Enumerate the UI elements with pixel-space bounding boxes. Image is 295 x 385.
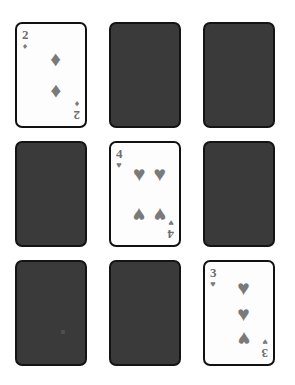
card-index-top-left: 2♦ (22, 28, 28, 51)
diamonds-suit-icon: ♦ (23, 42, 28, 51)
diamonds-pip-icon: ♦ (50, 47, 61, 68)
card-row1-col1[interactable]: 2♦2♦♦♦ (15, 22, 87, 128)
hearts-suit-icon: ♥ (210, 280, 215, 289)
card-row3-col3[interactable]: 3♥3♥♥♥♥ (203, 260, 275, 366)
card-row2-col3[interactable] (203, 141, 275, 247)
card-row1-col2[interactable] (109, 22, 181, 128)
card-back-texture-mark (61, 330, 65, 334)
hearts-pip-icon: ♥ (133, 204, 145, 225)
card-row1-col3[interactable] (203, 22, 275, 128)
hearts-pip-icon: ♥ (154, 204, 166, 225)
card-row3-col2[interactable] (109, 260, 181, 366)
hearts-pip-icon: ♥ (133, 163, 145, 184)
card-row3-col1[interactable] (15, 260, 87, 366)
card-pip-field: ♦♦ (33, 32, 78, 118)
card-rank-label: 2 (22, 28, 28, 41)
card-pip-field: ♥♥♥ (221, 270, 266, 356)
card-index-top-left: 3♥ (210, 266, 216, 289)
hearts-pip-icon: ♥ (237, 303, 249, 324)
hearts-suit-icon: ♥ (116, 161, 121, 170)
card-row2-col2[interactable]: 4♥4♥♥♥♥♥ (109, 141, 181, 247)
card-row2-col1[interactable] (15, 141, 87, 247)
hearts-pip-icon: ♥ (237, 328, 249, 349)
card-pip-field: ♥♥♥♥ (127, 151, 172, 237)
card-index-top-left: 4♥ (116, 147, 122, 170)
card-rank-label: 4 (116, 147, 122, 160)
card-rank-label: 3 (210, 266, 216, 279)
diamonds-pip-icon: ♦ (50, 82, 61, 103)
hearts-pip-icon: ♥ (154, 163, 166, 184)
card-grid: 2♦2♦♦♦4♥4♥♥♥♥♥3♥3♥♥♥♥ (0, 0, 295, 385)
hearts-pip-icon: ♥ (237, 277, 249, 298)
